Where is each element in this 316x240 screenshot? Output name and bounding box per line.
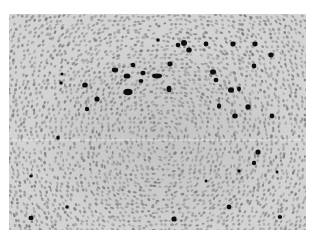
stained-nucleus (181, 40, 187, 46)
stained-nucleus (167, 62, 172, 67)
stained-nucleus (123, 89, 132, 95)
stained-nucleus (217, 103, 221, 109)
nucleus (214, 148, 216, 151)
nucleus (210, 142, 212, 145)
scan-line-artifact (9, 140, 306, 141)
stained-nucleus (60, 72, 63, 75)
stained-nucleus (245, 104, 250, 110)
stained-nucleus (131, 63, 136, 67)
nucleus (33, 148, 36, 151)
nucleus (231, 126, 234, 129)
stained-nucleus (252, 42, 257, 47)
stained-nucleus (227, 205, 232, 210)
stained-nucleus (94, 96, 99, 101)
stained-nucleus (230, 42, 235, 47)
nucleus (136, 133, 138, 136)
stained-nucleus (65, 205, 69, 209)
stained-nucleus (252, 161, 256, 165)
nucleus (153, 61, 156, 64)
stained-nucleus (112, 68, 118, 73)
nucleus (75, 152, 78, 155)
nucleus (265, 107, 267, 111)
stained-nucleus (255, 149, 260, 154)
stained-nucleus (232, 114, 238, 119)
stained-nucleus (278, 215, 282, 219)
nucleus (114, 137, 117, 140)
stained-nucleus (186, 47, 192, 52)
stained-nucleus (167, 86, 172, 92)
stained-nucleus (82, 82, 88, 87)
stained-nucleus (29, 174, 33, 177)
tissue-section-render (9, 14, 306, 230)
nucleus (30, 133, 33, 136)
stained-nucleus (176, 43, 181, 47)
stained-nucleus (276, 171, 279, 174)
nucleus (122, 27, 125, 30)
stained-nucleus (152, 74, 162, 79)
stained-nucleus (270, 114, 275, 119)
stained-nucleus (85, 107, 89, 111)
nucleus (248, 150, 250, 154)
stained-nucleus (139, 79, 144, 83)
stained-nucleus (28, 216, 33, 220)
stained-nucleus (237, 169, 241, 173)
stained-nucleus (124, 73, 131, 78)
histology-micrograph (9, 14, 306, 230)
nucleus (18, 184, 21, 187)
stained-nucleus (140, 71, 145, 75)
stained-nucleus (59, 81, 63, 85)
stained-nucleus (268, 53, 273, 58)
stained-nucleus (210, 69, 216, 75)
image-frame (0, 0, 316, 240)
stained-nucleus (237, 87, 241, 92)
stained-nucleus (204, 42, 209, 47)
nucleus (257, 159, 259, 162)
nucleus (271, 143, 274, 146)
nucleus (137, 144, 140, 147)
stained-nucleus (252, 64, 257, 69)
stained-nucleus (214, 78, 219, 82)
stained-nucleus (171, 216, 176, 221)
nucleus (264, 113, 266, 116)
stained-nucleus (228, 87, 234, 93)
nucleus (193, 33, 197, 35)
stained-nucleus (205, 180, 208, 183)
stained-nucleus (156, 38, 160, 42)
